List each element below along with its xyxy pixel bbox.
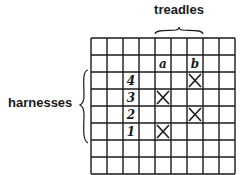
harness-label-3: 3: [127, 91, 135, 105]
treadle-label-b: b: [191, 57, 199, 71]
tie-up-x-mark-icon: [189, 108, 201, 121]
harnesses-brace-icon: [80, 70, 88, 143]
tie-up-x-mark-icon: [157, 91, 169, 104]
treadles-brace-icon: [155, 27, 203, 34]
tie-up-x-mark-icon: [157, 125, 169, 138]
treadle-label-a: a: [159, 57, 167, 71]
tie-up-diagram: ab4321: [0, 0, 248, 175]
harness-label-4: 4: [127, 74, 135, 88]
harness-label-1: 1: [127, 125, 135, 139]
harness-label-2: 2: [126, 108, 135, 122]
tie-up-x-mark-icon: [189, 74, 201, 87]
